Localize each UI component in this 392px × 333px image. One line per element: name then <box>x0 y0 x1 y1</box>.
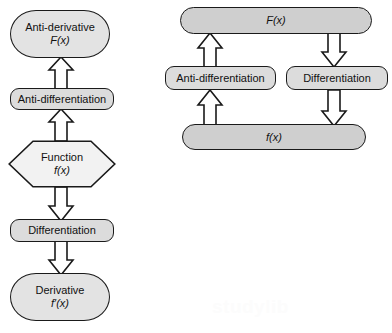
node-differentiation: Differentiation <box>10 219 114 242</box>
node-function: Function f(x) <box>8 140 116 188</box>
arrow-function-to-antidiff <box>47 108 75 142</box>
node-differentiation-label: Differentiation <box>28 224 96 237</box>
arrow-Fx-down-to-diff <box>320 32 348 68</box>
diagram-canvas: Anti-derivative F(x) Anti-differentiatio… <box>0 0 392 333</box>
arrow-function-to-diff <box>47 186 75 222</box>
node-function-line1: Function <box>41 151 83 164</box>
node-derivative-line1: Derivative <box>36 284 85 297</box>
node-derivative-line2: f′(x) <box>51 297 69 310</box>
node-anti-derivative: Anti-derivative F(x) <box>10 10 110 58</box>
cycle-node-anti-differentiation-label: Anti-differentiation <box>176 72 264 85</box>
node-anti-derivative-line1: Anti-derivative <box>25 21 95 34</box>
cycle-node-anti-differentiation: Anti-differentiation <box>165 66 276 90</box>
arrow-antidiff-up-to-Fx <box>196 32 224 68</box>
node-anti-differentiation-label: Anti-differentiation <box>18 93 106 106</box>
cycle-node-Fx: F(x) <box>180 7 372 34</box>
node-anti-derivative-line2: F(x) <box>50 34 70 47</box>
cycle-node-fx-label: f(x) <box>266 131 282 144</box>
node-anti-differentiation: Anti-differentiation <box>10 88 114 110</box>
node-function-line2: f(x) <box>54 164 70 177</box>
cycle-node-differentiation: Differentiation <box>286 66 388 90</box>
arrow-fx-up-to-antidiff <box>196 89 224 127</box>
node-derivative: Derivative f′(x) <box>10 273 110 321</box>
cycle-node-Fx-label: F(x) <box>266 14 286 27</box>
cycle-node-fx: f(x) <box>182 124 366 150</box>
arrow-antidiff-to-antiderivative <box>47 56 75 90</box>
arrow-diff-to-derivative <box>47 240 75 276</box>
watermark-text: studylib <box>212 296 289 318</box>
cycle-node-differentiation-label: Differentiation <box>303 72 371 85</box>
arrow-diff-down-to-fx <box>320 89 348 127</box>
